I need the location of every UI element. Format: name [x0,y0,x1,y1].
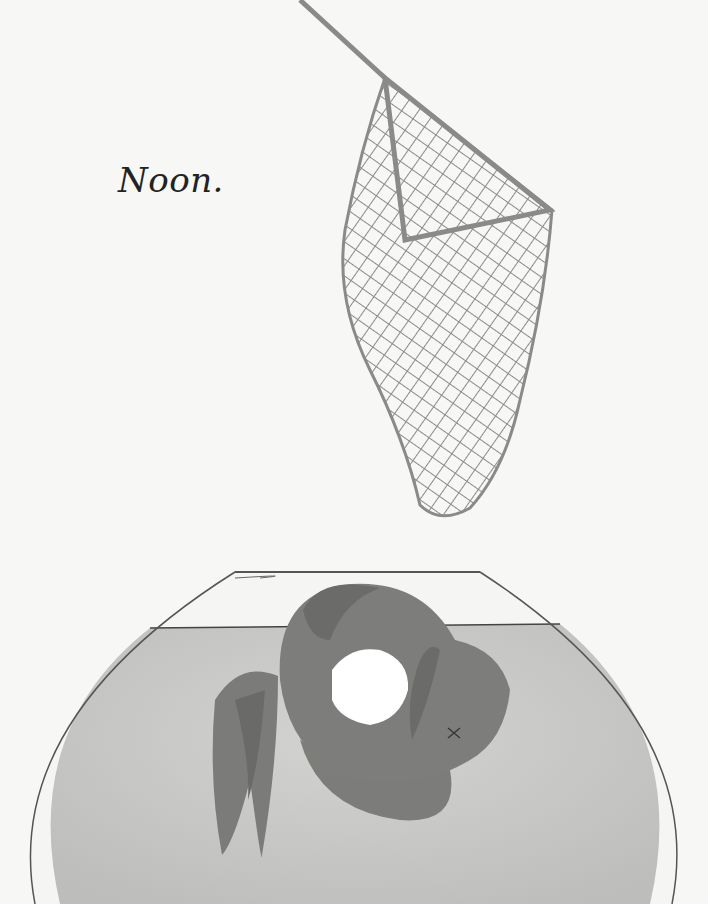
fishing-net [300,0,552,518]
net-handle [300,0,385,78]
illustration [0,0,708,904]
net-mesh [343,78,552,516]
